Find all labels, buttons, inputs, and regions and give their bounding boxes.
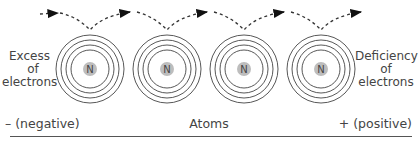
label-line: electrons (355, 76, 417, 89)
positive-label: + (positive) (339, 116, 412, 131)
nucleus-label-1: N (84, 63, 96, 76)
electron-flow-arrows (40, 12, 361, 30)
deficiency-electrons-label: Deficiency of electrons (355, 50, 417, 89)
nucleus-label-4: N (315, 63, 327, 76)
excess-electrons-label: Excess of electrons (2, 50, 50, 89)
label-line: Excess (2, 50, 50, 63)
nucleus-label-3: N (238, 63, 250, 76)
label-line: electrons (2, 76, 50, 89)
nucleus-label-2: N (161, 63, 173, 76)
bottom-rule (10, 136, 412, 137)
